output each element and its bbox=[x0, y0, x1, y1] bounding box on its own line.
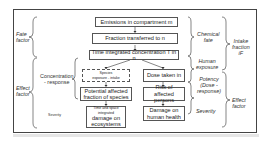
human-line2: exposure bbox=[196, 64, 218, 70]
effect-right-line2: factor bbox=[232, 103, 246, 109]
time-integrated-box: Time integrated concentration T in n bbox=[89, 50, 179, 60]
species-exposure-box: Species exposure - intake bbox=[82, 69, 130, 82]
emissions-label: Emissions in compartment m bbox=[101, 19, 173, 25]
emissions-box: Emissions in compartment m bbox=[95, 17, 178, 27]
severity-right-label: Severity bbox=[196, 108, 215, 114]
fraction-transferred-label: Fraction transferred to n bbox=[105, 35, 165, 41]
intake-line3: iF bbox=[232, 50, 250, 56]
severity-left-label: Severity bbox=[48, 113, 61, 117]
dose-taken-label: Dose taken in bbox=[147, 72, 181, 78]
fate-factor-label: Fate factor bbox=[16, 31, 29, 43]
fate-line2: factor bbox=[16, 37, 29, 43]
potency-line3: response) bbox=[197, 88, 221, 94]
time-integrated-label: Time integrated concentration T in n bbox=[91, 49, 177, 62]
risk-line1: Risk of affected bbox=[145, 84, 183, 97]
eco-line2: ecosystems bbox=[91, 121, 121, 127]
fraction-transferred-box: Fraction transferred to n bbox=[92, 33, 178, 44]
severity-left-text: Severity bbox=[48, 113, 61, 117]
potential-affected-line2: fraction of species bbox=[83, 94, 128, 100]
chemical-line2: fate bbox=[197, 37, 219, 43]
effect-left-line2: factor bbox=[16, 91, 30, 97]
dose-taken-box: Dose taken in bbox=[143, 69, 185, 82]
effect-factor-left-label: Effect factor bbox=[16, 85, 30, 97]
species-exposure-bottom: exposure - intake bbox=[92, 76, 120, 80]
risk-line2: persons bbox=[154, 97, 174, 103]
ecosystem-damage-box: Time and space integrated damage on ecos… bbox=[86, 106, 126, 128]
concentration-response-label: Concentration - response bbox=[40, 73, 74, 85]
human-health-box: Damage on human health bbox=[143, 106, 185, 121]
risk-affected-box: Risk of affected persons bbox=[143, 87, 185, 101]
human-exposure-label: Human exposure bbox=[196, 58, 218, 70]
severity-right-text: Severity bbox=[196, 108, 215, 114]
intake-fraction-label: Intake fraction iF bbox=[232, 38, 250, 57]
potential-affected-box: Potential affected fraction of species bbox=[80, 87, 132, 101]
potency-label: Potency (Dose - response) bbox=[197, 76, 221, 95]
conc-line2: - response bbox=[40, 79, 74, 85]
health-line2: human health bbox=[147, 114, 181, 120]
effect-factor-right-label: Effect factor bbox=[232, 97, 246, 109]
chemical-fate-label: Chemical fate bbox=[197, 31, 219, 43]
